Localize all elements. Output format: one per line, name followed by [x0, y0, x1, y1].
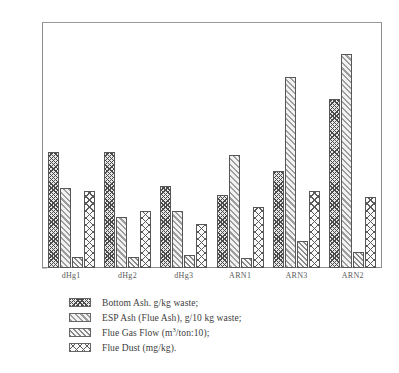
legend-label-esp-ash: ESP Ash (Flue Ash), g/10 kg waste;: [102, 313, 242, 323]
bar-group: [329, 23, 376, 268]
bar: [253, 207, 264, 268]
x-axis-labels: dHg1dHg2dHg3ARN1ARN3ARN2: [43, 271, 381, 285]
legend-label-bottom-ash: Bottom Ash. g/kg waste;: [102, 298, 198, 308]
x-axis-tick-label: dHg3: [156, 271, 212, 285]
bar: [196, 224, 207, 268]
legend-label-flue-dust: Flue Dust (mg/kg).: [102, 343, 176, 353]
bar: [341, 54, 352, 268]
bar: [309, 191, 320, 268]
bar: [84, 191, 95, 268]
x-axis-tick-label: dHg1: [43, 271, 99, 285]
bar-group: [160, 23, 207, 268]
bar: [365, 197, 376, 268]
bar-group: [273, 23, 320, 268]
legend-item-gas-flow: Flue Gas Flow (m3/ton:10);: [69, 325, 369, 340]
bar: [104, 152, 115, 268]
bar: [329, 99, 340, 268]
x-axis-tick-label: ARN2: [325, 271, 381, 285]
bar: [273, 171, 284, 268]
legend-label-gas-flow-head: Flue Gas Flow (m: [102, 329, 172, 339]
bar: [241, 258, 252, 268]
legend-item-esp-ash: ESP Ash (Flue Ash), g/10 kg waste;: [69, 310, 369, 325]
bar: [229, 155, 240, 268]
legend-swatch-flue-dust-icon: [69, 343, 91, 352]
bar: [353, 252, 364, 268]
bar: [60, 188, 71, 268]
x-axis-tick-label: ARN1: [212, 271, 268, 285]
legend-item-bottom-ash: Bottom Ash. g/kg waste;: [69, 295, 369, 310]
legend-item-flue-dust: Flue Dust (mg/kg).: [69, 340, 369, 355]
bar: [72, 257, 83, 268]
bar: [48, 152, 59, 268]
bar: [184, 255, 195, 268]
bar: [217, 195, 228, 269]
chart-legend: Bottom Ash. g/kg waste; ESP Ash (Flue As…: [69, 295, 369, 355]
legend-label-gas-flow: Flue Gas Flow (m3/ton:10);: [102, 326, 209, 338]
bar: [140, 211, 151, 268]
bar: [128, 257, 139, 268]
bar: [116, 217, 127, 268]
x-axis-tick-label: dHg2: [99, 271, 155, 285]
bar: [160, 186, 171, 268]
bar-group: [48, 23, 95, 268]
bar: [285, 77, 296, 268]
legend-swatch-esp-ash-icon: [69, 313, 91, 322]
legend-swatch-bottom-ash-icon: [69, 298, 91, 307]
bar-group: [104, 23, 151, 268]
x-axis-tick-label: ARN3: [268, 271, 324, 285]
y-axis: 050100150200250300350400450500: [0, 0, 42, 269]
bar-group: [217, 23, 264, 268]
bar: [172, 211, 183, 268]
legend-swatch-gas-flow-icon: [69, 328, 91, 337]
legend-label-gas-flow-tail: /ton:10);: [176, 329, 210, 339]
bar: [297, 241, 308, 268]
bar-groups: [43, 23, 381, 268]
